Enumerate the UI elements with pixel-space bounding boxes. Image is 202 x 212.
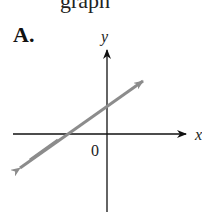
x-axis-label: x [194,126,202,143]
graph: x y 0 [0,0,202,212]
y-axis-label: y [99,28,109,46]
line-with-arrows [20,81,143,168]
origin-label: 0 [91,142,99,159]
